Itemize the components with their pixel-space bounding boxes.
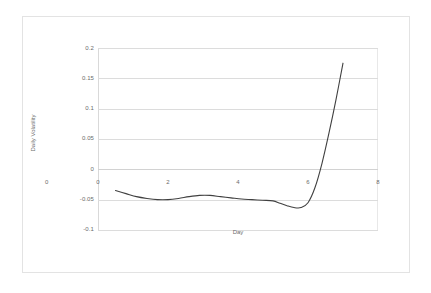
y-tick-label: 0.15 [82, 74, 94, 82]
x-tick-label: 2 [166, 178, 169, 186]
y-tick-label: -0.1 [83, 225, 94, 233]
x-axis-origin-label: 0 [45, 178, 48, 186]
x-axis-title: Day [98, 228, 378, 236]
y-tick-label: 0.1 [85, 104, 94, 112]
volatility-line-series [98, 48, 378, 230]
x-tick-label: 6 [306, 178, 309, 186]
y-axis-title: Daily Volatility [29, 98, 37, 168]
x-tick-label: 0 [96, 178, 99, 186]
y-tick-label: 0.05 [82, 134, 94, 142]
chart-screenshot: Daily Volatility 0.2 0.15 0.1 0.05 0 -0.… [0, 0, 431, 293]
y-tick-label: 0.2 [85, 44, 94, 52]
x-tick-label: 8 [376, 178, 379, 186]
x-tick-label: 4 [236, 178, 239, 186]
x-axis-tick-labels: 0 2 4 6 8 [98, 178, 378, 190]
plot-area [98, 48, 378, 230]
y-tick-label: 0 [91, 165, 94, 173]
y-tick-label: -0.05 [80, 195, 94, 203]
y-axis-tick-labels: 0.2 0.15 0.1 0.05 0 -0.05 -0.1 [60, 48, 94, 230]
